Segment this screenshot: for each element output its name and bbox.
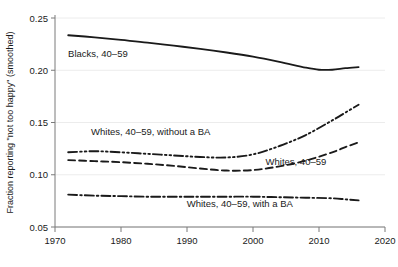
y-axis-title: Fraction reporting "not too happy" (smoo… [5, 32, 15, 214]
series-label-1: Whites, 40–59, without a BA [91, 126, 211, 137]
x-tick-label: 1970 [44, 235, 65, 246]
y-tick-label: 0.20 [30, 65, 49, 76]
series-label-0: Blacks, 40–59 [68, 48, 128, 59]
y-tick-label: 0.25 [30, 13, 49, 24]
x-tick-label: 1980 [110, 235, 131, 246]
line-chart: 0.050.100.150.200.2519701980199020002010… [0, 0, 398, 267]
x-tick-label: 2000 [242, 235, 263, 246]
y-tick-label: 0.15 [30, 117, 49, 128]
chart-figure: 0.050.100.150.200.2519701980199020002010… [0, 0, 398, 267]
x-tick-label: 1990 [176, 235, 197, 246]
series-label-3: Whites, 40–59, with a BA [187, 198, 294, 209]
x-tick-label: 2020 [374, 235, 395, 246]
x-tick-label: 2010 [308, 235, 329, 246]
series-label-2: Whites, 40–59 [266, 156, 327, 167]
y-tick-label: 0.05 [30, 222, 49, 233]
y-tick-label: 0.10 [30, 169, 49, 180]
